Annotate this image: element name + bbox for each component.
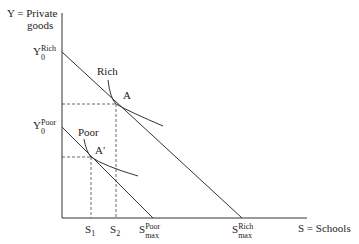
s1-label: S1 — [85, 224, 95, 236]
smax-rich-label: SRichmax — [232, 224, 238, 235]
curve-label-rich: Rich — [97, 66, 118, 77]
smax-poor-label: SPoormax — [139, 224, 145, 235]
y0-poor-base: Y — [33, 119, 41, 131]
y0-rich-sub: 0 — [41, 52, 45, 63]
budget-line-poor — [62, 127, 153, 218]
y0-rich-base: Y — [33, 45, 41, 57]
y-axis-label-line2: goods — [27, 20, 53, 31]
y0-rich-label: YRich0 — [33, 46, 41, 57]
y0-poor-label: YPoor0 — [33, 120, 41, 131]
x-axis-label: S = Schools — [298, 223, 351, 234]
y0-poor-sub: 0 — [41, 126, 45, 137]
smax-poor-sub: max — [145, 230, 159, 241]
point-label-a-prime: A′ — [95, 145, 105, 156]
s1-sub: 1 — [91, 229, 95, 238]
point-label-a: A — [123, 90, 131, 101]
smax-rich-sub: max — [238, 230, 252, 241]
curve-label-poor: Poor — [78, 127, 99, 138]
s2-sub: 2 — [116, 229, 120, 238]
s2-label: S2 — [110, 224, 120, 236]
indifference-curve-poor — [84, 139, 138, 176]
y-axis-label-line1: Y = Private — [7, 8, 57, 19]
